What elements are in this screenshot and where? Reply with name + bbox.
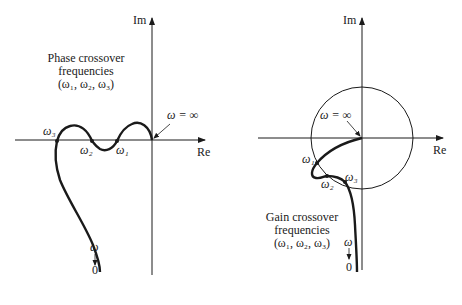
right-w1-point: [315, 161, 319, 165]
left-nyquist-curve: [56, 123, 152, 272]
left-w1-label: ω₁: [116, 143, 129, 158]
right-nyquist-curve: [312, 138, 362, 272]
left-im-label: Im: [133, 13, 146, 28]
right-w3-label: ω₃: [345, 170, 358, 185]
left-omega-inf-pointer: [154, 124, 170, 138]
left-w3-point: [55, 139, 59, 143]
caption-line: (ω₁, ω₂, ω₃): [28, 78, 144, 91]
left-re-label: Re: [197, 145, 210, 160]
left-omega-label: ω: [90, 240, 98, 255]
right-im-label: Im: [343, 13, 356, 28]
nyquist-diagrams: [0, 0, 462, 305]
left-zero-label: 0: [92, 263, 98, 278]
right-omega-inf-label: ω = ∞: [320, 108, 351, 123]
caption-line: (ω₁, ω₂, ω₃): [252, 237, 352, 250]
phase-crossover-caption: Phase crossover frequencies (ω₁, ω₂, ω₃): [28, 52, 144, 91]
right-omega-label: ω: [344, 235, 352, 250]
right-w1-label: ω₁: [302, 152, 315, 167]
right-omega-inf-pointer: [347, 121, 360, 136]
left-w3-label: ω₃: [43, 124, 56, 139]
right-zero-label: 0: [346, 260, 352, 275]
right-re-label: Re: [433, 143, 446, 158]
right-w2-label: ω₂: [321, 177, 334, 192]
left-w2-label: ω₂: [80, 143, 93, 158]
left-omega-inf-label: ω = ∞: [167, 108, 198, 123]
gain-crossover-caption: Gain crossover frequencies (ω₁, ω₂, ω₃): [252, 211, 352, 250]
